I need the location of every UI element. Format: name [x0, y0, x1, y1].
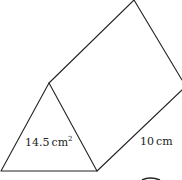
length-label: 10cm [140, 135, 173, 148]
area-label: 14.5cm2 [25, 135, 73, 149]
triangular-prism-diagram: 14.5cm2 10cm [0, 0, 182, 180]
partial-shape-fragment [142, 178, 160, 180]
top-edge [49, 0, 134, 83]
triangle-face [1, 83, 97, 171]
back-slant-edge [134, 0, 182, 80]
bottom-length-edge [97, 90, 182, 171]
